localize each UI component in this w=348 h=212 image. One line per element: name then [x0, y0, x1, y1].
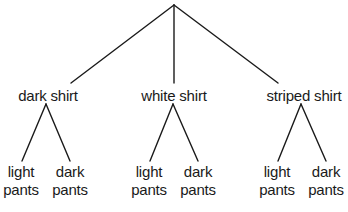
- edge-root-dark-shirt: [71, 5, 174, 83]
- leaf-striped-shirt-dark-pants: dark pants: [308, 163, 344, 199]
- edge-dark-shirt-dark-pants: [46, 104, 70, 161]
- leaf-line2: pants: [259, 181, 295, 199]
- leaf-line1: dark: [180, 163, 216, 181]
- leaf-line1: dark: [52, 163, 88, 181]
- leaf-line1: light: [259, 163, 295, 181]
- leaf-line1: dark: [308, 163, 344, 181]
- leaf-line2: pants: [180, 181, 216, 199]
- leaf-line1: light: [3, 163, 39, 181]
- leaf-line2: pants: [3, 181, 39, 199]
- leaf-line1: light: [131, 163, 167, 181]
- edge-white-shirt-light-pants: [150, 104, 173, 161]
- node-dark-shirt: dark shirt: [18, 87, 78, 104]
- edge-dark-shirt-light-pants: [22, 104, 46, 161]
- leaf-white-shirt-light-pants: light pants: [131, 163, 167, 199]
- edge-striped-shirt-light-pants: [278, 104, 301, 161]
- node-white-shirt: white shirt: [141, 87, 206, 104]
- leaf-line2: pants: [52, 181, 88, 199]
- leaf-line2: pants: [308, 181, 344, 199]
- leaf-white-shirt-dark-pants: dark pants: [180, 163, 216, 199]
- leaf-dark-shirt-dark-pants: dark pants: [52, 163, 88, 199]
- leaf-line2: pants: [131, 181, 167, 199]
- edge-root-striped-shirt: [174, 5, 278, 83]
- edge-striped-shirt-dark-pants: [301, 104, 326, 161]
- edge-white-shirt-dark-pants: [173, 104, 198, 161]
- node-striped-shirt: striped shirt: [267, 87, 342, 104]
- leaf-dark-shirt-light-pants: light pants: [3, 163, 39, 199]
- leaf-striped-shirt-light-pants: light pants: [259, 163, 295, 199]
